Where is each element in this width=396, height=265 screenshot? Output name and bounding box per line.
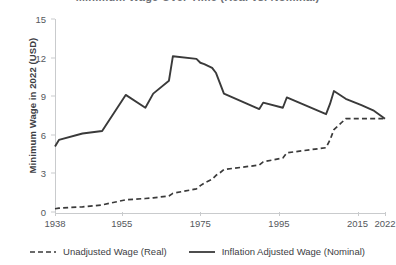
x-tick-mark (279, 212, 280, 216)
x-tick-label: 2022 (374, 218, 395, 229)
data-series-layer (55, 19, 385, 212)
series-line-unadjusted (55, 119, 385, 209)
legend-entry-inflation-adjusted[interactable]: Inflation Adjusted Wage (Nominal) (189, 246, 365, 257)
x-tick-label: 1975 (190, 218, 211, 229)
series-line-inflation-adjusted (55, 56, 385, 146)
legend-entry-unadjusted[interactable]: Unadjusted Wage (Real) (30, 246, 167, 257)
chart-legend: Unadjusted Wage (Real) Inflation Adjuste… (0, 246, 395, 257)
dashed-line-icon (30, 248, 56, 256)
x-tick-label: 1955 (111, 218, 132, 229)
legend-label-unadjusted: Unadjusted Wage (Real) (63, 246, 167, 257)
solid-line-icon (189, 248, 215, 256)
y-axis-title: Minimum Wage in 2022 (USD) (27, 11, 38, 201)
x-tick-mark (385, 212, 386, 216)
x-tick-label: 2015 (347, 218, 368, 229)
chart-title-clipped: Minimum Wage Over Time (Real vs. Nominal… (0, 0, 395, 3)
legend-label-inflation-adjusted: Inflation Adjusted Wage (Nominal) (222, 246, 365, 257)
x-tick-mark (358, 212, 359, 216)
x-tick-mark (200, 212, 201, 216)
x-tick-mark (122, 212, 123, 216)
x-tick-label: 1995 (268, 218, 289, 229)
x-tick-label: 1938 (44, 218, 65, 229)
x-axis-line (55, 213, 385, 214)
plot-area: 03691215 193819551975199520152022 (55, 19, 385, 212)
x-tick-mark (55, 212, 56, 216)
